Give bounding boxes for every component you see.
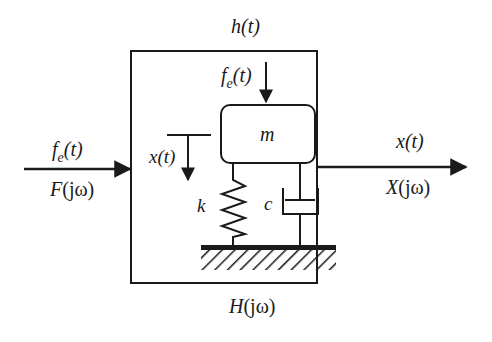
output-time-label: x(t) [395,130,424,153]
displacement-label: x(t) [148,146,175,168]
input-time-label: fe(t) [52,138,83,165]
system-frequency-label: H(jω) [228,295,276,318]
ground-hatching [201,250,336,270]
system-time-label: h(t) [231,15,260,38]
ground-line [201,245,336,250]
mass-label: m [260,123,274,145]
output-frequency-label: X(jω) [385,176,430,199]
spring [222,163,245,245]
spring-label: k [197,195,206,216]
input-frequency-label: F(jω) [49,178,94,201]
force-label: fe(t) [221,64,252,91]
diagram-canvas: h(t) H(jω) fe(t) F(jω) x(t) X(jω) fe(t) … [0,0,492,342]
damper-label: c [264,193,273,214]
